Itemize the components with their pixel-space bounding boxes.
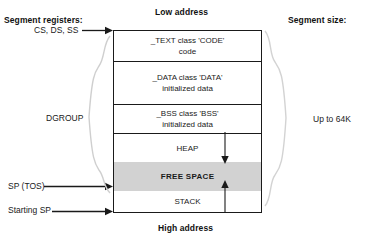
segment-stack: STACK [114, 191, 261, 212]
segment-stack-label: STACK [174, 196, 200, 207]
segment-bss-line2: initialized data [162, 119, 213, 130]
segment-heap-label: HEAP [177, 143, 199, 154]
starting-sp-label: Starting SP [8, 205, 51, 215]
segment-text: _TEXT class 'CODE' code [114, 31, 261, 61]
segment-registers-heading: Segment registers: [4, 15, 83, 25]
cs-ds-ss-label: CS, DS, SS [34, 25, 78, 35]
diagram-canvas: Segment registers: Low address Segment s… [0, 0, 375, 240]
segment-size-heading: Segment size: [288, 15, 346, 25]
sp-tos-pointer-arrow [44, 183, 113, 190]
high-address-label: High address [158, 223, 213, 233]
cs-ds-ss-pointer-arrow [82, 27, 113, 34]
dgroup-brace [89, 36, 110, 193]
segment-data-line1: _DATA class 'DATA' [152, 72, 222, 83]
segment-data: _DATA class 'DATA' initialized data [114, 61, 261, 104]
segment-text-line2: code [179, 46, 196, 57]
segment-bss-line1: _BSS class 'BSS' [156, 108, 218, 119]
sp-tos-label: SP (TOS) [8, 181, 45, 191]
segment-heap: HEAP [114, 133, 261, 162]
segment-free-space-label: FREE SPACE [161, 171, 215, 182]
segment-size-value: Up to 64K [313, 114, 351, 124]
segment-data-line2: initialized data [162, 83, 213, 94]
segment-free-space: FREE SPACE [114, 162, 261, 191]
low-address-label: Low address [155, 7, 208, 17]
starting-sp-pointer-arrow [52, 208, 113, 215]
segment-bss: _BSS class 'BSS' initialized data [114, 104, 261, 133]
dgroup-label: DGROUP [46, 113, 83, 123]
memory-map-box: _TEXT class 'CODE' code _DATA class 'DAT… [113, 30, 262, 213]
segment-size-brace [265, 31, 286, 206]
segment-text-line1: _TEXT class 'CODE' [151, 35, 225, 46]
